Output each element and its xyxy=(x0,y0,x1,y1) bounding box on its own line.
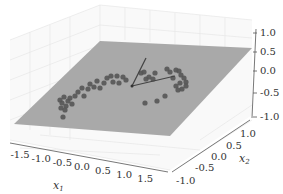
data-point xyxy=(114,73,119,78)
y-tick-label: -1.0 xyxy=(176,175,195,186)
z-tick-label: 1.0 xyxy=(260,27,276,38)
data-point xyxy=(167,69,172,74)
data-point xyxy=(75,89,80,94)
vector-origin xyxy=(131,85,134,88)
data-point xyxy=(79,85,84,90)
data-point xyxy=(101,80,106,85)
data-point xyxy=(154,98,159,103)
data-point xyxy=(85,86,90,91)
x-axis-label: x1 xyxy=(53,179,64,193)
chart-root: -1.5-1.0-0.50.00.51.01.5 x1 -1.0-0.50.00… xyxy=(0,0,283,194)
data-point xyxy=(141,69,146,74)
z-tick-label: -0.5 xyxy=(260,87,279,98)
x-tick-label: 1.5 xyxy=(137,173,153,184)
data-point xyxy=(62,107,67,112)
data-point xyxy=(67,95,72,100)
z-tick-label: 0.5 xyxy=(260,46,276,57)
data-point xyxy=(162,93,167,98)
y-axis-label: x2 xyxy=(239,152,250,166)
x-tick-label: 0.5 xyxy=(95,165,111,176)
data-point xyxy=(60,114,65,119)
x-tick-label: -1.5 xyxy=(10,149,29,160)
data-point xyxy=(183,83,188,88)
x-tick-label: -0.5 xyxy=(53,157,72,168)
x-tick-label: 1.0 xyxy=(116,169,132,180)
data-point xyxy=(81,93,86,98)
y-tick-label: 1.0 xyxy=(240,128,256,139)
y-tick-label: -0.5 xyxy=(195,162,214,173)
data-point xyxy=(91,84,96,89)
3d-scatter-chart: -1.5-1.0-0.50.00.51.01.5 x1 -1.0-0.50.00… xyxy=(0,0,283,194)
data-point xyxy=(108,73,113,78)
x-tick-label: -1.0 xyxy=(32,153,51,164)
data-point xyxy=(110,79,115,84)
y-tick-label: 0.0 xyxy=(211,151,227,162)
data-point xyxy=(116,80,121,85)
data-point xyxy=(142,100,147,105)
z-tick-label: -1.0 xyxy=(260,111,279,122)
data-point xyxy=(123,77,128,82)
data-point xyxy=(69,101,74,106)
x-tick-label: 0.0 xyxy=(74,161,90,172)
data-point xyxy=(97,85,102,90)
data-point xyxy=(61,94,66,99)
data-point xyxy=(94,78,99,83)
z-tick-label: 0.0 xyxy=(260,65,276,76)
data-point xyxy=(152,70,157,75)
y-tick-label: 0.5 xyxy=(226,140,242,151)
z-axis: 1.00.50.0-0.5-1.0 xyxy=(252,27,279,122)
